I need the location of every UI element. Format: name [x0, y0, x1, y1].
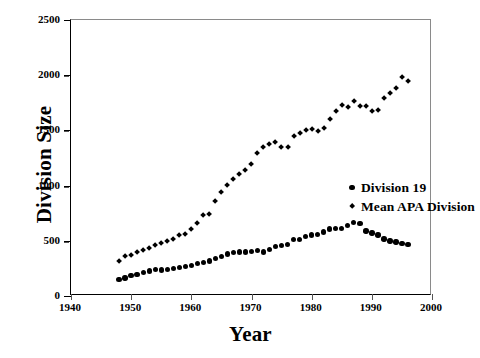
x-tick-label: 1970 [231, 301, 271, 313]
x-tick-label: 1950 [110, 301, 150, 313]
data-point [381, 236, 386, 241]
data-point [315, 232, 320, 237]
y-tick-inner [64, 242, 69, 243]
data-point [224, 182, 230, 188]
data-point [369, 230, 374, 235]
data-point [357, 221, 362, 226]
data-point [116, 258, 122, 264]
data-point [297, 237, 302, 242]
y-tick: 1500 [64, 130, 71, 131]
data-point [183, 264, 188, 269]
y-tick: 2000 [64, 75, 71, 76]
y-tick-label: 500 [44, 234, 61, 246]
data-point [116, 277, 121, 282]
data-point [315, 128, 321, 134]
data-point [141, 270, 146, 275]
data-point [261, 144, 267, 150]
data-point [206, 211, 212, 217]
x-axis-title: Year [70, 322, 431, 347]
y-tick: 1000 [64, 186, 71, 187]
data-point [273, 140, 279, 146]
data-point [213, 256, 218, 261]
data-point [339, 226, 344, 231]
data-point [327, 226, 332, 231]
data-point [327, 117, 333, 123]
data-point [375, 232, 380, 237]
data-point [345, 104, 351, 110]
data-point [291, 237, 296, 242]
data-point [122, 275, 127, 280]
data-point [243, 249, 248, 254]
data-point [363, 103, 369, 109]
circle-marker-icon [343, 185, 361, 190]
data-point [182, 231, 188, 237]
data-point [405, 78, 411, 84]
data-point [303, 127, 309, 133]
data-point [237, 249, 242, 254]
data-point [321, 229, 326, 234]
y-tick-label: 1000 [38, 179, 60, 191]
x-tick-label: 1990 [351, 301, 391, 313]
data-point [273, 244, 278, 249]
data-point [153, 267, 158, 272]
data-point [170, 236, 176, 242]
diamond-marker-icon [343, 204, 361, 208]
data-point [393, 85, 399, 91]
data-point [255, 248, 260, 253]
data-point [393, 239, 398, 244]
data-point [351, 220, 356, 225]
x-tick-label: 1980 [291, 301, 331, 313]
data-point [128, 252, 134, 258]
chart-legend: Division 19 Mean APA Division [343, 178, 480, 216]
data-point [279, 145, 285, 151]
y-axis-title: Division Size [32, 45, 57, 285]
data-point [194, 220, 200, 226]
data-point [236, 171, 242, 177]
x-tick-label: 2000 [411, 301, 451, 313]
data-point [399, 241, 404, 246]
y-tick-inner [64, 187, 69, 188]
data-point [333, 226, 338, 231]
y-tick-inner [64, 76, 69, 77]
data-point [357, 103, 363, 109]
data-point [159, 267, 164, 272]
data-point [309, 232, 314, 237]
data-point [147, 268, 152, 273]
data-point [219, 254, 224, 259]
data-point [339, 103, 345, 109]
data-point [225, 251, 230, 256]
data-point [249, 249, 254, 254]
data-point [230, 176, 236, 182]
data-point [249, 161, 255, 167]
data-point [309, 126, 315, 132]
legend-item-division-19: Division 19 [343, 178, 480, 197]
data-point [297, 130, 303, 136]
data-point [279, 243, 284, 248]
data-point [387, 238, 392, 243]
data-point [261, 249, 266, 254]
data-point [267, 247, 272, 252]
x-tick [432, 294, 433, 300]
data-point [363, 228, 368, 233]
x-tick [372, 294, 373, 300]
data-point [128, 273, 133, 278]
data-point [387, 90, 393, 96]
data-point [134, 272, 139, 277]
data-point [405, 242, 410, 247]
data-point [177, 265, 182, 270]
data-point [303, 234, 308, 239]
data-point [351, 98, 357, 104]
data-point [285, 145, 291, 151]
data-point [399, 74, 405, 80]
x-tick-label: 1960 [170, 301, 210, 313]
data-point [243, 167, 249, 173]
data-point [146, 245, 152, 251]
legend-label: Division 19 [361, 180, 426, 196]
data-point [333, 108, 339, 114]
data-point [195, 261, 200, 266]
x-tick [131, 294, 132, 300]
x-tick [312, 294, 313, 300]
x-tick-label: 1940 [50, 301, 90, 313]
data-point [381, 95, 387, 101]
